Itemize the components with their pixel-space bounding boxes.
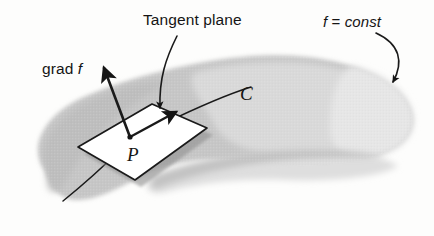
label-level-surface-equals: = <box>332 13 341 30</box>
label-grad-f: grad f <box>42 61 82 77</box>
figure-tangent-plane-gradient: Tangent plane f = const grad f P C <box>0 0 434 236</box>
label-grad-function: f <box>78 60 82 77</box>
label-level-surface-f: f <box>323 13 327 30</box>
label-level-surface-equation: f = const <box>323 14 381 29</box>
label-tangent-plane: Tangent plane <box>143 12 242 28</box>
level-surface-shape <box>38 55 414 200</box>
label-point-p: P <box>127 145 139 164</box>
point-p-marker <box>127 134 132 139</box>
pointer-f-const <box>376 33 399 82</box>
label-curve-c: C <box>240 84 253 103</box>
label-level-surface-const: const <box>345 13 381 30</box>
diagram-canvas <box>0 0 434 236</box>
label-grad-prefix: grad <box>42 60 73 77</box>
